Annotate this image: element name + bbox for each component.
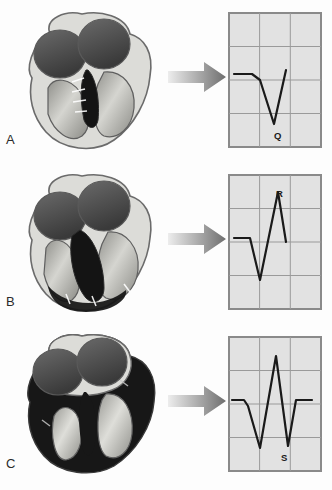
arrow-right-icon [168,224,226,254]
wave-label-r: R [276,188,283,199]
panel-letter-a: A [6,132,15,147]
wave-label-q: Q [274,130,281,141]
wave-label-s: S [281,452,287,463]
flow-arrow-a [166,57,228,97]
left-atrium-a [78,19,130,69]
ecg-panel-a: Q [228,12,322,148]
arrow-right-icon [168,386,226,416]
panel-c: C S [0,326,332,486]
heart-diagram-b [8,166,166,316]
panel-letter-c: C [6,456,16,471]
panel-letter-b: B [6,294,15,309]
panel-b: B R [0,164,332,324]
left-atrium-c [77,338,127,386]
right-ventricle-c [53,408,82,460]
right-atrium-a [34,30,86,78]
flow-arrow-c [166,381,228,421]
heart-diagram-a [8,4,166,154]
ecg-panel-b: R [228,174,322,310]
panel-a: A Q [0,2,332,162]
flow-arrow-b [166,219,228,259]
left-atrium-b [78,181,130,231]
ecg-panel-c: S [228,336,322,472]
arrow-right-icon [168,62,226,92]
right-atrium-c [33,349,83,395]
heart-diagram-c [8,328,166,478]
